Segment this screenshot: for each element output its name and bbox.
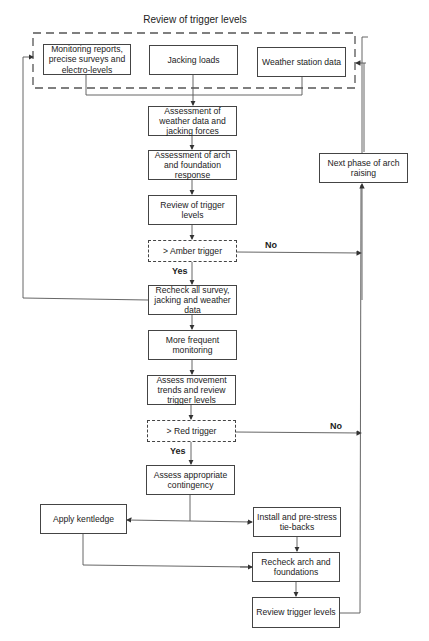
red-no-label: No (330, 421, 342, 431)
step-review-trigger-levels: Review of trigger levels (148, 195, 237, 225)
decision-red-trigger: > Red trigger (147, 420, 236, 442)
input-jacking-loads: Jacking loads (149, 45, 238, 75)
group-title: Review of trigger levels (0, 14, 390, 25)
step-assess-weather: Assessment of weather data and jacking f… (148, 106, 237, 136)
step-assess-contingency: Assess appropriate contingency (146, 465, 235, 495)
amber-yes-label: Yes (172, 266, 188, 276)
red-yes-label: Yes (170, 446, 186, 456)
step-recheck-all: Recheck all survey, jacking and weather … (148, 285, 237, 315)
step-apply-kentledge: Apply kentledge (40, 504, 127, 534)
step-recheck-arch: Recheck arch and foundations (252, 552, 340, 582)
connector-lines (0, 0, 429, 641)
step-review-trigger-levels-final: Review trigger levels (252, 597, 340, 628)
step-assess-movement: Assess movement trends and review trigge… (147, 375, 236, 405)
input-monitoring-reports: Monitoring reports, precise surveys and … (43, 44, 131, 75)
step-more-frequent-monitoring: More frequent monitoring (148, 330, 237, 360)
amber-no-label: No (265, 240, 277, 250)
decision-amber-trigger: > Amber trigger (148, 240, 237, 262)
step-install-tiebacks: Install and pre-stress tie-backs (253, 507, 341, 537)
input-weather-station: Weather station data (257, 47, 346, 77)
step-assess-arch: Assessment of arch and foundation respon… (148, 150, 237, 180)
step-next-phase: Next phase of arch raising (319, 153, 408, 183)
